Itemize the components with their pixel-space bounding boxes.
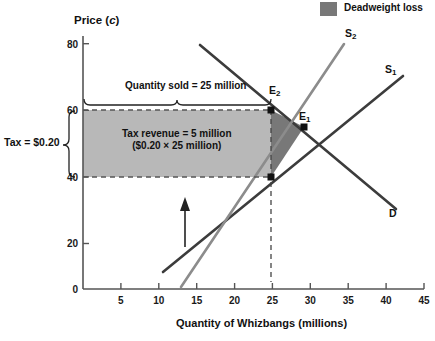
tax-amount-label: Tax = $0.20 xyxy=(4,136,60,148)
x-tick-label-30: 30 xyxy=(305,295,317,306)
x-tick-label-20: 20 xyxy=(229,295,241,306)
equilibrium-1-letter: E xyxy=(299,110,306,122)
x-axis-title: Quantity of Whizbangs (millions) xyxy=(176,317,347,330)
x-tick-label-45: 45 xyxy=(418,295,430,306)
supply-2-letter: S xyxy=(345,27,352,39)
equilibrium-1-subscript: 1 xyxy=(306,115,310,124)
equilibrium-point-e2 xyxy=(268,107,275,114)
y-axis-title-text: Price ( xyxy=(74,14,109,26)
x-tick-label-15: 15 xyxy=(191,295,203,306)
equilibrium-point-e1 xyxy=(301,124,308,131)
y-tick-label-80: 80 xyxy=(67,39,79,50)
y-axis-title-close: ) xyxy=(116,14,120,26)
tax-revenue-line-2: ($0.20 × 25 million) xyxy=(122,140,232,152)
legend-label-deadweight-loss: Deadweight loss xyxy=(344,2,423,14)
x-tick-label-40: 40 xyxy=(381,295,393,306)
chart-plot-area: 80 60 40 20 0 5 10 15 20 25 30 35 40 45 xyxy=(0,0,435,341)
y-tick-label-20: 20 xyxy=(67,238,79,249)
supply-curve-1-label: S1 xyxy=(385,63,396,77)
x-tick-label-25: 25 xyxy=(267,295,279,306)
supply-2-subscript: 2 xyxy=(352,32,356,41)
legend-swatch-deadweight-loss xyxy=(320,2,337,16)
quantity-sold-label: Quantity sold = 25 million xyxy=(125,80,246,92)
x-tick-label-5: 5 xyxy=(118,295,124,306)
equilibrium-1-label: E1 xyxy=(299,110,310,124)
supply-shift-arrow xyxy=(180,197,190,247)
equilibrium-2-letter: E xyxy=(269,84,276,96)
supply-1-subscript: 1 xyxy=(392,68,396,77)
tax-bracket-brace xyxy=(63,111,75,177)
equilibrium-2-label: E2 xyxy=(269,84,280,98)
y-tick-label-0: 0 xyxy=(72,284,78,295)
producer-price-point xyxy=(268,174,275,181)
tax-revenue-line-1: Tax revenue = 5 million xyxy=(122,128,232,139)
deadweight-loss-chart: 80 60 40 20 0 5 10 15 20 25 30 35 40 45 … xyxy=(0,0,435,341)
y-tick-label-60: 60 xyxy=(67,105,79,116)
y-axis-title: Price (c) xyxy=(74,14,119,27)
quantity-sold-brace xyxy=(84,99,271,105)
y-tick-label-40: 40 xyxy=(67,172,79,183)
supply-curve-2-label: S2 xyxy=(345,27,356,41)
tax-revenue-label: Tax revenue = 5 million ($0.20 × 25 mill… xyxy=(122,128,232,151)
supply-1-letter: S xyxy=(385,63,392,75)
x-axis-ticks xyxy=(121,283,424,289)
x-tick-label-35: 35 xyxy=(343,295,355,306)
demand-curve-label: D xyxy=(389,207,397,219)
equilibrium-2-subscript: 2 xyxy=(276,89,280,98)
x-tick-label-10: 10 xyxy=(153,295,165,306)
